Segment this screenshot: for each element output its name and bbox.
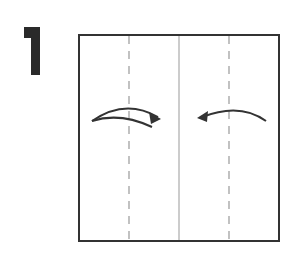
fold-diagram bbox=[0, 0, 297, 256]
